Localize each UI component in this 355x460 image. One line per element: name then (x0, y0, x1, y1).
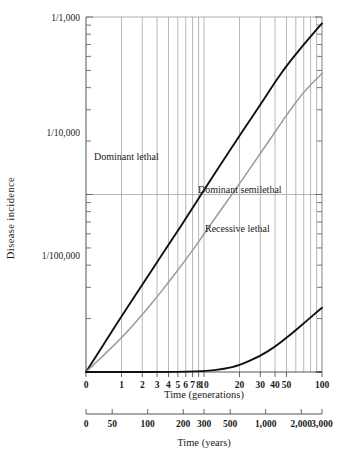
secondary-axis-tick-labels: 0501002003005001,0002,0003,000 (84, 419, 333, 429)
y-tick-label-1000: 1/1,000 (51, 13, 80, 23)
x-tick-label: 0 (84, 380, 89, 390)
x-tick-label: 3 (155, 380, 160, 390)
figure-container: 1/1,000 1/10,000 1/100,000 Disease incid… (0, 0, 355, 460)
y-tick-label-100000: 1/100,000 (42, 251, 81, 261)
x-axis-title: Time (generations) (164, 389, 244, 401)
secondary-axis-tick-label: 300 (197, 419, 212, 429)
x-tick-label: 30 (256, 380, 266, 390)
secondary-axis-title: Time (years) (177, 437, 231, 449)
secondary-axis-tick-label: 3,000 (311, 419, 333, 429)
y-tick-label-10000: 1/10,000 (46, 128, 80, 138)
annotation-recessive-lethal: Recessive lethal (205, 223, 270, 234)
secondary-axis-tick-label: 1,000 (255, 419, 277, 429)
x-tick-label: 2 (140, 380, 145, 390)
annotation-dominant-lethal: Dominant lethal (94, 151, 159, 162)
secondary-axis-tick-label: 2,000 (291, 419, 313, 429)
secondary-axis-tick-label: 500 (223, 419, 238, 429)
y-axis-title: Disease incidence (5, 177, 16, 259)
x-tick-label: 100 (315, 380, 330, 390)
x-tick-label: 1 (119, 380, 124, 390)
disease-incidence-chart: 1/1,000 1/10,000 1/100,000 Disease incid… (0, 0, 355, 460)
secondary-axis-tick-label: 0 (84, 419, 89, 429)
secondary-axis-tick-label: 200 (176, 419, 191, 429)
secondary-axis-tick-label: 100 (141, 419, 156, 429)
x-tick-label: 50 (282, 380, 292, 390)
x-tick-label: 40 (270, 380, 280, 390)
secondary-axis-ticks (86, 409, 322, 414)
annotation-dominant-semilethal: Dominant semilethal (198, 184, 282, 195)
secondary-axis-tick-label: 50 (107, 419, 117, 429)
